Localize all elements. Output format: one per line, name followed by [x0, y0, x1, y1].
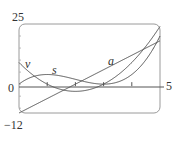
- y-max-label: 25: [12, 11, 24, 23]
- series-label-a: a: [108, 55, 114, 67]
- series-label-s: s: [52, 64, 57, 76]
- curve-a: [19, 41, 160, 113]
- origin-label: 0: [8, 82, 14, 94]
- x-max-label: 5: [166, 80, 172, 92]
- curve-v: [19, 26, 160, 91]
- y-min-label: −12: [4, 119, 23, 131]
- chart-plot: [0, 0, 178, 144]
- series-label-v: v: [25, 58, 30, 70]
- curves: [19, 26, 160, 113]
